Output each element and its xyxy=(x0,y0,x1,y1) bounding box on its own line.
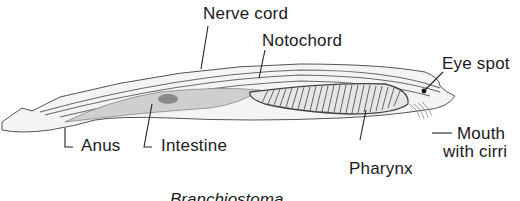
label-mouth-line1: Mouth xyxy=(457,125,505,142)
lancelet-illustration xyxy=(0,0,520,201)
diagram-canvas: Nerve cord Notochord Eye spot Mouth with… xyxy=(0,0,520,201)
label-mouth-line2: with cirri xyxy=(443,143,507,160)
label-intestine: Intestine xyxy=(161,137,227,154)
figure-caption: Branchiostoma xyxy=(170,191,283,201)
label-anus: Anus xyxy=(81,137,121,154)
label-pharynx: Pharynx xyxy=(349,160,413,177)
label-notochord: Notochord xyxy=(262,32,342,49)
label-nerve-cord: Nerve cord xyxy=(203,5,288,22)
label-eye-spot: Eye spot xyxy=(442,55,510,72)
